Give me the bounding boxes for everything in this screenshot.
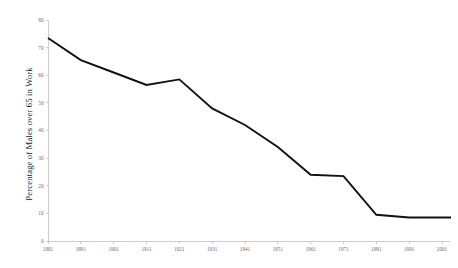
y-tick-label: 80 (38, 17, 44, 23)
x-tick-label: 1931 (207, 246, 218, 252)
y-tick-label: 30 (38, 155, 44, 161)
x-tick-label: 1941 (240, 246, 251, 252)
y-tick-label: 60 (38, 72, 44, 78)
x-tick-label: 1891 (76, 246, 87, 252)
y-tick-label: 50 (38, 100, 44, 106)
series-line (48, 38, 451, 218)
y-tick-label: 40 (38, 127, 44, 133)
y-tick-label: 70 (38, 45, 44, 51)
data-series-group (48, 38, 451, 218)
x-tick-label: 1881 (43, 246, 54, 252)
x-axis: 1881189119011911192119311941195119611971… (43, 241, 450, 252)
x-tick-label: 1971 (338, 246, 349, 252)
x-tick-label: 1921 (174, 246, 185, 252)
x-tick-label: 1901 (108, 246, 119, 252)
line-chart-plot: 01020304050607080 1881189119011911192119… (0, 0, 458, 268)
x-tick-label: 2001 (437, 246, 448, 252)
x-tick-label: 1911 (141, 246, 152, 252)
x-tick-label: 1981 (371, 246, 382, 252)
y-tick-label: 10 (38, 210, 44, 216)
x-tick-label: 1991 (404, 246, 415, 252)
x-tick-label: 1951 (273, 246, 284, 252)
chart-container: Percentage of Males over 65 in Work 0102… (0, 0, 458, 268)
y-axis: 01020304050607080 (38, 17, 48, 244)
y-tick-label: 0 (41, 238, 44, 244)
x-tick-label: 1961 (305, 246, 316, 252)
y-tick-label: 20 (38, 183, 44, 189)
